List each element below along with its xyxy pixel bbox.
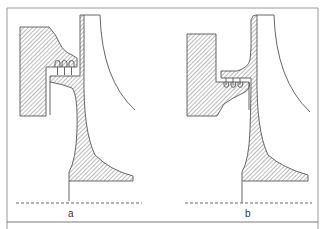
impeller-passage-a [84,15,135,110]
panel-label-b: b [245,209,251,219]
diagram-canvas [0,0,321,229]
panel-label-a: a [68,209,74,219]
panel-b [185,15,312,203]
casing-a [20,27,77,116]
impeller-a [50,15,133,181]
panel-a [16,15,142,203]
